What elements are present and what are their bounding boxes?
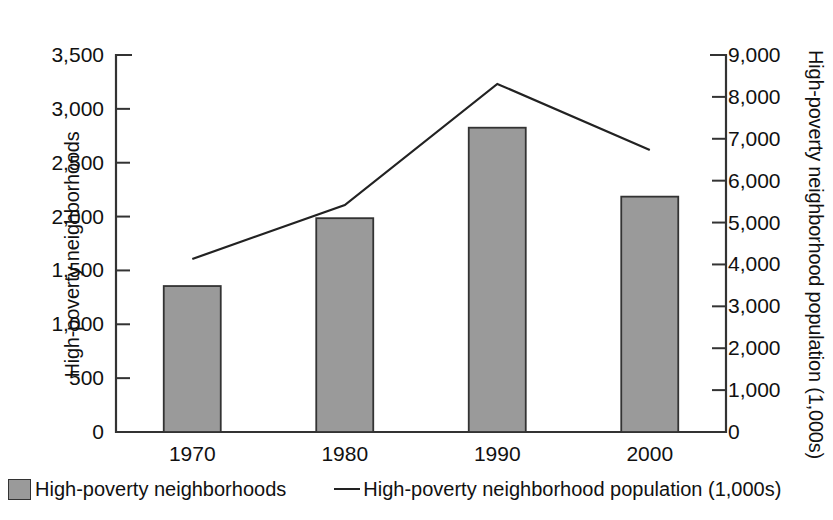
bar-1970 [164,286,221,432]
line-series [192,84,650,259]
right-axis-tickmarks [712,97,726,390]
legend-label-line: High-poverty neighborhood population (1,… [363,478,781,501]
line-swatch-icon [334,488,360,490]
box-swatch-icon [8,479,31,500]
left-axis-spine [116,55,132,432]
chart-legend: High-poverty neighborhoods High-poverty … [0,472,833,506]
legend-item-line: High-poverty neighborhood population (1,… [334,478,781,501]
bar-series [164,128,679,432]
plot-area [0,0,833,520]
legend-label-bars: High-poverty neighborhoods [35,478,286,501]
population-line [192,84,650,259]
bar-1990 [469,128,526,432]
bar-1980 [316,218,373,432]
right-axis-spine [710,55,726,432]
legend-item-bars: High-poverty neighborhoods [8,478,286,501]
chart-figure: High-poverty neighborhoods High-poverty … [0,0,833,520]
left-axis-tickmarks [116,109,130,378]
bar-2000 [621,197,678,432]
